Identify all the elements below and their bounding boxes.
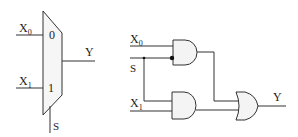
- mux-body: [43, 11, 62, 115]
- s-branch-wire: [144, 58, 172, 101]
- or-gate: [236, 92, 258, 120]
- inverter-bubble: [170, 56, 174, 60]
- mux-s-label: S: [53, 120, 59, 132]
- gates-x0-label: X0: [130, 32, 143, 48]
- mux-x1-label: X1: [19, 74, 32, 90]
- junction-dot: [143, 57, 146, 60]
- mux-x0-label: X0: [19, 21, 32, 37]
- gates-x1-label: X1: [130, 96, 143, 112]
- gates-s-label: S: [130, 62, 136, 74]
- mux-port1-label: 1: [48, 81, 54, 95]
- and-gate-bottom: [172, 92, 196, 119]
- and-gate-top: [173, 40, 197, 65]
- mux-diagram: X0 X1 0 1 Y S X0 S X1 Y: [0, 0, 298, 137]
- and1-out-wire: [197, 52, 239, 101]
- gate-circuit: [130, 40, 286, 120]
- gates-y-label: Y: [273, 90, 282, 104]
- mux-y-label: Y: [85, 45, 94, 59]
- mux-port0-label: 0: [49, 28, 55, 42]
